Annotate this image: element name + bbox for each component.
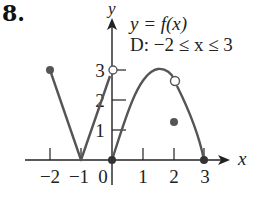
open-point [171, 77, 180, 86]
y-tick-label: 1 [95, 120, 105, 141]
x-axis [25, 155, 230, 165]
x-axis-label: x [237, 148, 247, 169]
x-tick-label: −2 [40, 166, 60, 187]
open-point [109, 66, 117, 74]
x-tick-label: 2 [169, 166, 179, 187]
closed-point [46, 66, 54, 74]
x-ticks [50, 148, 204, 160]
x-tick-label: −1 [69, 166, 89, 187]
closed-point [200, 156, 208, 164]
x-tick-label: 3 [200, 166, 210, 187]
x-tick-label: 1 [138, 166, 148, 187]
closed-point [108, 156, 116, 164]
closed-point [170, 118, 178, 126]
y-tick-label: 3 [95, 60, 105, 81]
parabolic-piece [112, 69, 204, 160]
function-label: y = f(x) [128, 13, 187, 35]
y-axis-label: y [106, 0, 116, 18]
x-tick-label: 0 [98, 166, 108, 187]
function-graph: −2 −1 0 1 2 3 1 2 3 x y y = f(x) D: −2 ≤… [0, 0, 264, 209]
left-linear-piece [50, 70, 110, 160]
domain-label: D: −2 ≤ x ≤ 3 [130, 34, 233, 55]
